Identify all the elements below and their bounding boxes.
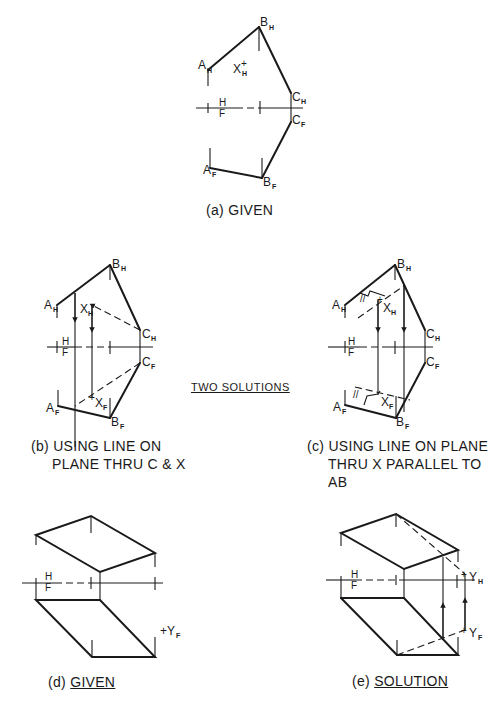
svg-text:+Y: +Y — [160, 624, 175, 638]
caption-a: (a) GIVEN — [206, 201, 273, 219]
svg-text:C: C — [142, 355, 151, 369]
figure-d-given: +YF H F — [22, 516, 181, 657]
svg-text:H: H — [121, 265, 126, 272]
svg-text:F: F — [348, 347, 354, 358]
caption-c: (c) USING LINE ON PLANE THRU X PARALLEL … — [307, 437, 488, 491]
label-c-cf: CF — [426, 355, 440, 370]
svg-text:B: B — [397, 257, 405, 271]
svg-text:F: F — [176, 632, 181, 639]
svg-text://: // — [353, 389, 359, 400]
svg-text:F: F — [389, 403, 394, 410]
svg-text:X: X — [233, 62, 241, 76]
label-a-f: AF — [203, 163, 217, 178]
label-b-bh: BH — [112, 257, 126, 272]
svg-text:A: A — [46, 401, 54, 415]
svg-text:F: F — [120, 423, 125, 430]
svg-text:F: F — [405, 423, 410, 430]
svg-text:H: H — [207, 67, 212, 74]
caption-b: (b) USING LINE ON PLANE THRU C & X — [31, 437, 186, 473]
label-b-f: BF — [263, 175, 277, 190]
svg-text:A: A — [333, 400, 341, 414]
svg-text:F: F — [103, 404, 108, 411]
svg-text:H: H — [219, 97, 226, 108]
svg-text:B: B — [111, 415, 119, 429]
svg-text:F: F — [342, 408, 347, 415]
technical-drawing-canvas: AH BH X+H CH CF AF BF H F AH BH XH — [0, 0, 498, 707]
svg-text:X: X — [381, 395, 389, 409]
svg-text:H: H — [62, 336, 69, 347]
svg-text:A: A — [203, 163, 211, 177]
svg-text:C: C — [426, 327, 435, 341]
svg-text:F: F — [301, 121, 306, 128]
label-e-yh: +YH — [461, 569, 483, 585]
svg-text:H: H — [435, 335, 440, 342]
svg-text:Y: Y — [469, 626, 477, 640]
svg-text:A: A — [332, 298, 340, 312]
svg-text:H: H — [53, 306, 58, 313]
label-e-yf: +YF — [461, 625, 483, 641]
svg-text:H: H — [301, 98, 306, 105]
label-x-h: X+H — [233, 58, 247, 77]
label-c-xf: XF — [381, 395, 394, 410]
svg-text:F: F — [212, 171, 217, 178]
svg-text:F: F — [272, 183, 277, 190]
svg-text:C: C — [292, 90, 301, 104]
svg-text:H: H — [391, 309, 396, 316]
svg-text:H: H — [242, 70, 247, 77]
figure-e-solution: +YH +YF H F — [326, 514, 483, 655]
label-c-h: CH — [292, 90, 306, 105]
svg-text://: // — [360, 293, 366, 304]
svg-text:X: X — [95, 396, 103, 410]
label-b-ch: CH — [142, 327, 156, 342]
label-c-bh: BH — [397, 257, 411, 272]
svg-text:A: A — [198, 58, 206, 72]
label-b-xf: +XF — [89, 392, 108, 411]
two-solutions-note: TWO SOLUTIONS — [191, 381, 290, 393]
svg-text:H: H — [348, 336, 355, 347]
svg-text:A: A — [44, 298, 52, 312]
svg-text:F: F — [478, 634, 483, 641]
svg-text:F: F — [351, 580, 357, 591]
label-b-h: BH — [260, 15, 274, 31]
label-a-h: AH — [198, 58, 212, 74]
label-d-yf: +YF — [160, 624, 181, 639]
svg-text:B: B — [396, 415, 404, 429]
svg-text:F: F — [62, 347, 68, 358]
svg-text:H: H — [341, 306, 346, 313]
label-b-cf: CF — [142, 355, 156, 370]
svg-text:C: C — [142, 327, 151, 341]
label-b-ah: AH — [44, 298, 58, 313]
svg-text:F: F — [219, 108, 225, 119]
svg-text:H: H — [269, 24, 274, 31]
svg-text:F: F — [45, 582, 51, 593]
label-c-ah: AH — [332, 298, 346, 313]
svg-text:X: X — [80, 302, 88, 316]
svg-text:C: C — [426, 355, 435, 369]
figure-c-solution: // // AH BH +XH CH CF AF BF XF H F — [328, 257, 440, 430]
figure-b-solution: AH BH XH CH CF AF BF +XF H F — [44, 257, 156, 447]
svg-text:B: B — [263, 175, 271, 189]
svg-text:+: + — [461, 625, 467, 636]
label-b-xh: XH — [80, 302, 93, 317]
svg-text:H: H — [88, 310, 93, 317]
caption-e: (e) SOLUTION — [352, 672, 448, 690]
svg-text:H: H — [478, 578, 483, 585]
svg-text:B: B — [260, 15, 268, 29]
svg-text:+: + — [241, 58, 247, 69]
svg-text:Y: Y — [469, 570, 477, 584]
label-c-f: CF — [292, 113, 306, 128]
svg-text:F: F — [55, 409, 60, 416]
figure-a-given: AH BH X+H CH CF AF BF H F — [196, 15, 306, 190]
svg-text:F: F — [151, 363, 156, 370]
svg-text:H: H — [351, 569, 358, 580]
svg-text:C: C — [292, 113, 301, 127]
svg-text:X: X — [383, 301, 391, 315]
label-c-bf: BF — [396, 415, 410, 430]
label-c-ch: CH — [426, 327, 440, 342]
label-b-bf: BF — [111, 415, 125, 430]
svg-text:B: B — [112, 257, 120, 271]
svg-text:H: H — [406, 265, 411, 272]
svg-text:H: H — [45, 571, 52, 582]
caption-d: (d) GIVEN — [48, 673, 115, 691]
svg-text:F: F — [435, 363, 440, 370]
